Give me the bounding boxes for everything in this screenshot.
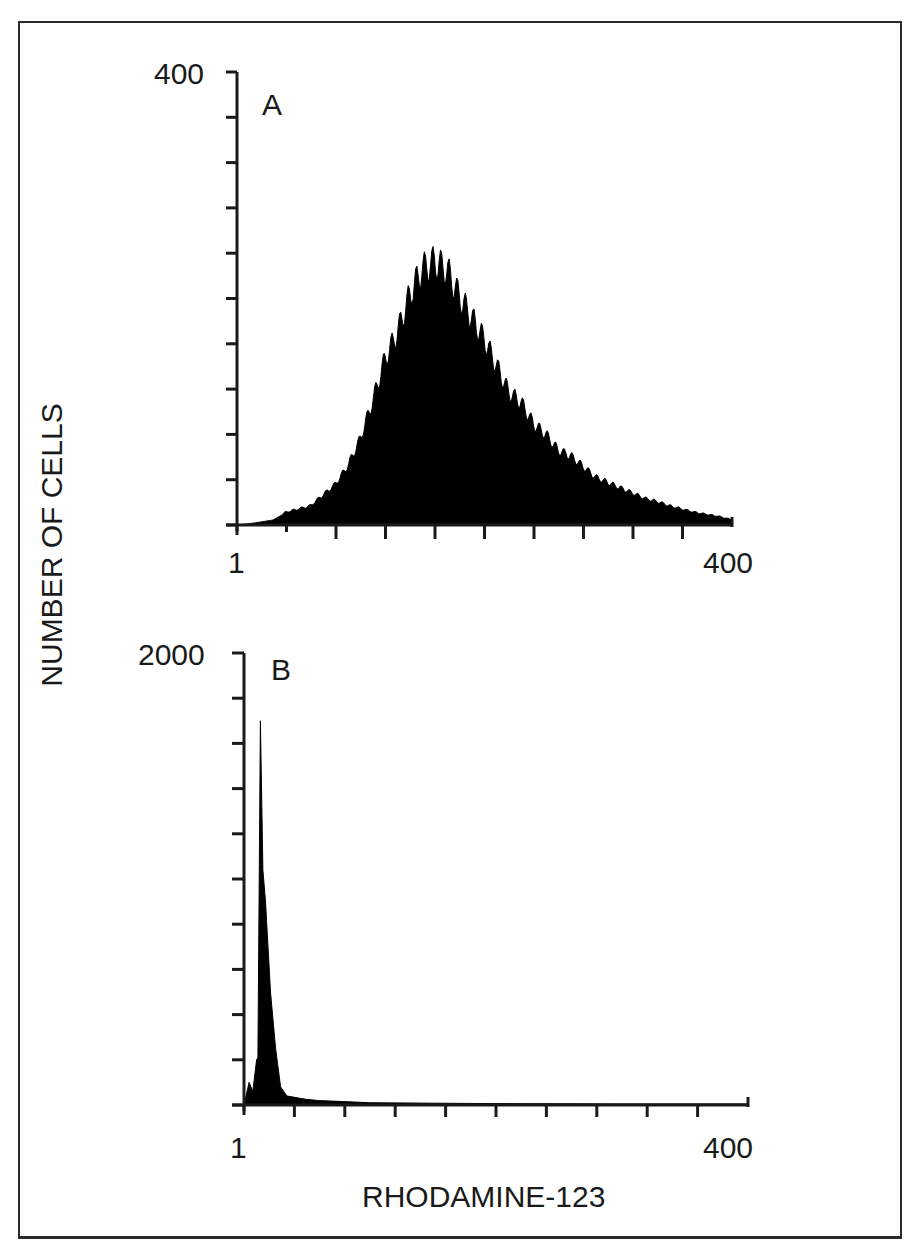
panel-b-x-max-label: 400 (703, 1133, 753, 1163)
panel-b-y-max-label: 2000 (138, 640, 205, 670)
panel-a-y-max-label: 400 (154, 59, 204, 89)
histogram-area (237, 247, 732, 525)
panel-a-x-min-label: 1 (228, 548, 245, 578)
panel-b-letter: B (271, 655, 291, 685)
panel-b-histogram (232, 653, 748, 1117)
panel-a-x-max-label: 400 (703, 548, 753, 578)
panel-b-x-min-label: 1 (230, 1133, 247, 1163)
histogram-plots (0, 0, 922, 1257)
y-axis-title: NUMBER OF CELLS (35, 403, 69, 686)
x-axis-title: RHODAMINE-123 (362, 1182, 605, 1212)
panel-a-letter: A (262, 90, 282, 120)
histogram-area (244, 721, 748, 1105)
panel-a-histogram (226, 72, 732, 539)
figure: 400 A 1 400 2000 B 1 400 RHODAMINE-123 N… (0, 0, 922, 1257)
